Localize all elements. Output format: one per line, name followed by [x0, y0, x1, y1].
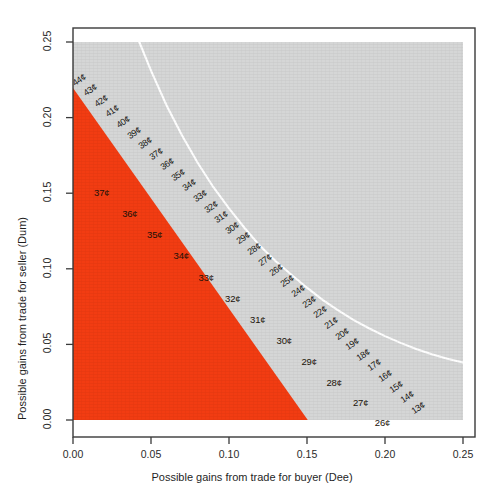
y-axis-title: Possible gains from trade for seller (Du… — [16, 217, 28, 420]
y-tick-label: 0.15 — [41, 178, 53, 206]
x-tick-label: 0.15 — [297, 448, 317, 460]
x-tick-label: 0.10 — [219, 448, 239, 460]
interior-price-label: 27¢ — [353, 398, 368, 408]
interior-price-label: 37¢ — [94, 188, 109, 198]
y-tick-label: 0.25 — [41, 27, 53, 55]
interior-price-label: 28¢ — [327, 378, 342, 388]
y-tick-label: 0.20 — [41, 103, 53, 131]
interior-price-label: 29¢ — [302, 357, 317, 367]
interior-price-label: 35¢ — [147, 230, 162, 240]
interior-price-label: 33¢ — [199, 273, 214, 283]
interior-price-label: 36¢ — [122, 209, 137, 219]
x-axis-title: Possible gains from trade for buyer (Dee… — [0, 471, 504, 483]
x-tick-label: 0.25 — [453, 448, 473, 460]
y-tick-label: 0.05 — [41, 329, 53, 357]
interior-price-label: 26¢ — [375, 418, 390, 428]
interior-price-label: 30¢ — [277, 336, 292, 346]
chart-figure: 0.000.050.100.150.200.25 0.000.050.100.1… — [0, 0, 504, 503]
y-tick-label: 0.10 — [41, 254, 53, 282]
interior-price-label: 34¢ — [174, 251, 189, 261]
x-tick-label: 0.05 — [141, 448, 161, 460]
x-tick-label: 0.00 — [63, 448, 83, 460]
x-tick-label: 0.20 — [375, 448, 395, 460]
interior-price-label: 31¢ — [250, 315, 265, 325]
interior-price-label: 32¢ — [225, 294, 240, 304]
y-tick-label: 0.00 — [41, 405, 53, 433]
